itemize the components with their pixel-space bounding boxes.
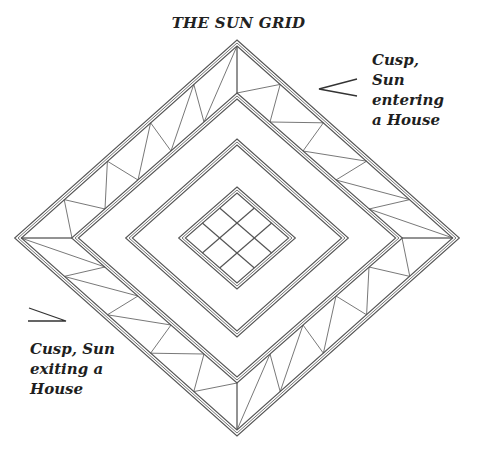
annotation-sun-exiting: Cusp, Sun exiting a House — [30, 339, 115, 399]
center-3x3-grid — [202, 208, 271, 268]
annotation-sun-entering: Cusp, Sun entering a House — [372, 50, 444, 130]
label-line: a House — [372, 110, 444, 130]
label-line: Sun — [372, 70, 444, 90]
label-line: Cusp, — [372, 50, 444, 70]
label-line: Cusp, Sun — [30, 339, 115, 359]
arrow-entering-icon — [319, 79, 357, 96]
label-line: House — [30, 379, 115, 399]
arrow-exiting-icon — [28, 308, 66, 321]
label-line: entering — [372, 90, 444, 110]
label-line: exiting a — [30, 359, 115, 379]
